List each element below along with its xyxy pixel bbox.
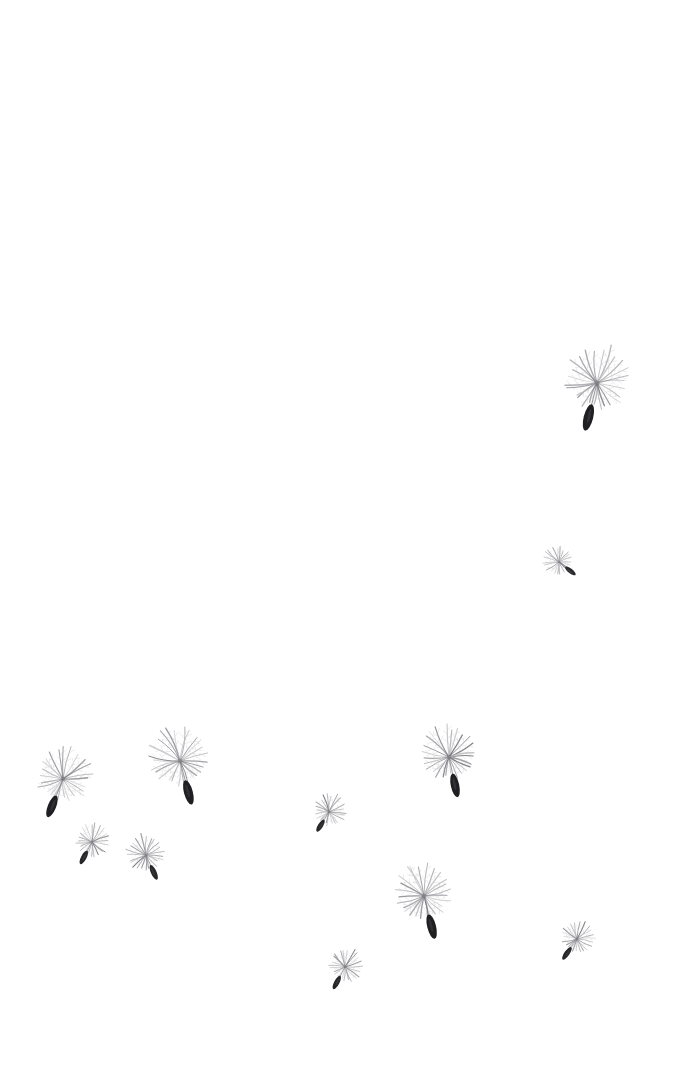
background-plate: [0, 0, 688, 1073]
pappus-filament: [63, 746, 64, 779]
dandelion-scene: [0, 0, 688, 1073]
dandelion-seeds-canvas: [0, 0, 688, 1073]
